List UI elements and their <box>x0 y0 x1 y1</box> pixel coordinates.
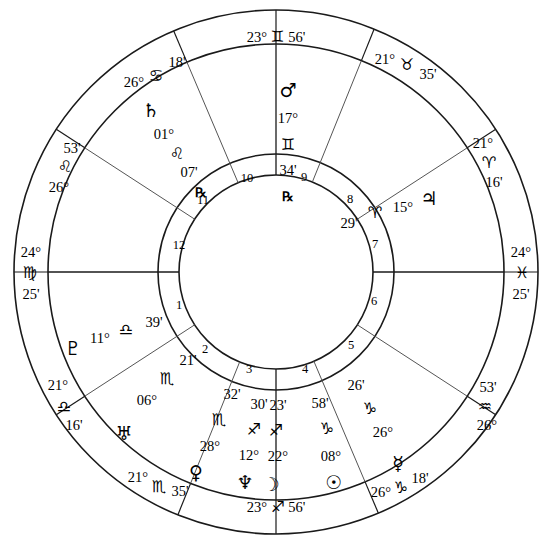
chart-wheel-graphics <box>0 0 552 544</box>
astrology-chart: 23° ♊ 56' 23° ♐ 56' 24° ♍ 25' 24° ♓ 25' … <box>0 0 552 544</box>
house-number-ring-inner-circle <box>179 175 373 369</box>
planet-ring-inner-circle <box>158 154 394 390</box>
angular-axis-lines <box>48 44 504 500</box>
